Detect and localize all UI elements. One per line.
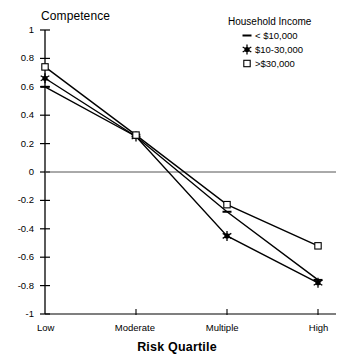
data-point-marker bbox=[244, 60, 250, 66]
y-axis-tick-label: 0.6 bbox=[0, 81, 34, 92]
legend-title: Household Income bbox=[228, 16, 352, 27]
y-axis-tick-label: 1 bbox=[0, 24, 34, 35]
star-marker bbox=[240, 44, 254, 55]
data-point-marker bbox=[133, 132, 139, 138]
data-point-marker bbox=[243, 45, 252, 55]
x-axis-tick-label: Low bbox=[37, 322, 54, 333]
data-point-marker bbox=[41, 73, 50, 83]
legend-item-label: >$30,000 bbox=[255, 58, 295, 69]
y-axis-tick-label: 0.2 bbox=[0, 138, 34, 149]
legend-item-label: $10-30,000 bbox=[255, 44, 303, 55]
data-point-marker bbox=[42, 64, 48, 70]
y-axis-tick-label: -0.2 bbox=[0, 194, 34, 205]
y-axis-tick-label: -1 bbox=[0, 308, 34, 319]
series-line bbox=[45, 67, 318, 246]
dash-marker bbox=[240, 30, 254, 41]
y-axis-tick-label: -0.6 bbox=[0, 251, 34, 262]
legend-item: $10-30,000 bbox=[240, 44, 352, 55]
y-axis-tick-label: 0.8 bbox=[0, 52, 34, 63]
series-line bbox=[45, 87, 318, 280]
legend-item: >$30,000 bbox=[240, 58, 352, 69]
open-square-marker bbox=[240, 58, 254, 69]
legend: Household Income < $10,000$10-30,000>$30… bbox=[222, 16, 352, 69]
y-axis-tick-label: 0 bbox=[0, 166, 34, 177]
x-axis-tick-label: Moderate bbox=[115, 322, 155, 333]
legend-item: < $10,000 bbox=[240, 30, 352, 41]
y-axis-tick-label: -0.4 bbox=[0, 223, 34, 234]
y-axis-tick-label: 0.4 bbox=[0, 109, 34, 120]
x-axis-title: Risk Quartile bbox=[0, 340, 354, 354]
x-axis-tick-label: High bbox=[309, 322, 329, 333]
y-axis-tick-label: -0.8 bbox=[0, 280, 34, 291]
legend-items: < $10,000$10-30,000>$30,000 bbox=[222, 30, 352, 69]
data-point-marker bbox=[315, 243, 321, 249]
data-point-marker bbox=[224, 201, 230, 207]
chart-container: Competence 10.80.60.40.20-0.2-0.4-0.6-0.… bbox=[0, 0, 354, 362]
legend-item-label: < $10,000 bbox=[255, 30, 298, 41]
x-axis-tick-label: Multiple bbox=[206, 322, 239, 333]
